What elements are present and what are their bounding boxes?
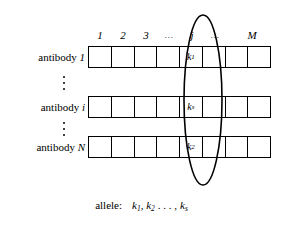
ellipsis-dot — [63, 88, 65, 90]
row-label-symbol-1: 1 — [80, 51, 86, 63]
matrix-cell[interactable] — [135, 137, 158, 157]
row-label-symbol-N: N — [78, 141, 85, 153]
matrix-cell[interactable] — [157, 137, 180, 157]
matrix-cell[interactable] — [248, 97, 270, 117]
cell-value-subscript: 2 — [191, 144, 195, 151]
matrix-cell[interactable] — [89, 47, 112, 67]
ellipsis-dot — [63, 122, 65, 124]
matrix-cell-highlighted[interactable]: k2 — [180, 137, 203, 157]
matrix-cell[interactable] — [89, 97, 112, 117]
column-header-M: M — [240, 26, 264, 44]
caption-allele-sub-1: 1 — [137, 204, 141, 213]
caption-allele-sub-last: s — [185, 204, 188, 213]
matrix-cell[interactable] — [157, 47, 180, 67]
row-label-antibody-N: antibody N — [1, 140, 85, 154]
column-header-j: j — [180, 26, 204, 44]
matrix-cell[interactable] — [248, 47, 270, 67]
matrix-cell-highlighted[interactable]: ks — [180, 97, 203, 117]
matrix-cell[interactable] — [135, 97, 158, 117]
matrix-cell[interactable] — [248, 137, 270, 157]
matrix-cell[interactable] — [203, 47, 226, 67]
vertical-ellipsis-upper — [61, 72, 67, 90]
ellipsis-dot — [63, 82, 65, 84]
antibody-allele-matrix-diagram: 1 2 3 … j … M antibody 1 antibody i anti… — [0, 0, 283, 225]
matrix-cell[interactable] — [226, 97, 249, 117]
column-header-2: 2 — [111, 26, 135, 44]
row-label-antibody-i: antibody i — [1, 100, 85, 114]
row-label-symbol-i: i — [82, 101, 85, 113]
matrix-cell[interactable] — [203, 97, 226, 117]
caption-allele-sub-2: 2 — [151, 204, 155, 213]
matrix-cell[interactable] — [135, 47, 158, 67]
matrix-cell[interactable] — [89, 137, 112, 157]
matrix-cell[interactable] — [112, 47, 135, 67]
matrix-cell[interactable] — [157, 97, 180, 117]
matrix-cell[interactable] — [203, 137, 226, 157]
ellipsis-dot — [63, 76, 65, 78]
matrix-cell[interactable] — [226, 137, 249, 157]
vertical-ellipsis-lower — [61, 118, 67, 136]
table-row: ks — [88, 96, 271, 118]
ellipsis-dot — [63, 128, 65, 130]
caption-alleles: k1, k2. . . ,ks — [132, 199, 188, 211]
table-row: k1 — [88, 46, 271, 68]
row-label-prefix-1: antibody — [38, 51, 77, 63]
row-label-prefix-i: antibody — [41, 101, 80, 113]
ellipsis-dot — [63, 134, 65, 136]
table-row: k2 — [88, 136, 271, 158]
row-label-column: antibody 1 antibody i antibody N — [0, 0, 85, 225]
row-label-prefix-N: antibody — [36, 141, 75, 153]
caption-ellipsis: . . . , — [158, 199, 177, 211]
column-header-row: 1 2 3 … j … M — [88, 26, 271, 44]
column-header-ellipsis-left: … — [157, 26, 181, 44]
caption: allele:k1, k2. . . ,ks — [0, 198, 283, 216]
cell-value-subscript: 1 — [191, 54, 195, 61]
matrix-cell[interactable] — [226, 47, 249, 67]
column-header-ellipsis-right: … — [203, 26, 227, 44]
row-label-antibody-1: antibody 1 — [1, 50, 85, 64]
cell-value-subscript: s — [192, 104, 195, 111]
matrix-cell[interactable] — [112, 137, 135, 157]
column-header-1: 1 — [88, 26, 112, 44]
caption-label: allele: — [95, 199, 122, 211]
column-header-3: 3 — [134, 26, 158, 44]
matrix-cell-highlighted[interactable]: k1 — [180, 47, 203, 67]
matrix-cell[interactable] — [112, 97, 135, 117]
